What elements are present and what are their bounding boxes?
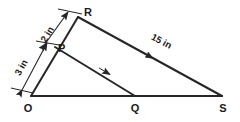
- dimension-extension-lines: [11, 9, 82, 93]
- vertex-label-Q: Q: [131, 102, 140, 114]
- triangle-ORS: [31, 17, 222, 96]
- dimension-label-15in: 15 in: [150, 31, 174, 51]
- segment-PQ: [55, 47, 135, 96]
- vertex-label-P: P: [58, 42, 65, 54]
- geometry-figure: 2 in 3 in 15 in R P O Q S: [0, 0, 240, 122]
- vertex-label-S: S: [219, 102, 226, 114]
- dimension-line-3in: 3 in: [12, 43, 47, 90]
- diagram-canvas: 2 in 3 in 15 in R P O Q S: [0, 0, 240, 122]
- dimension-label-2in: 2 in: [38, 24, 56, 44]
- segment-PQ-direction-arrow: [99, 68, 110, 75]
- vertex-label-O: O: [24, 102, 33, 114]
- segment-RS-direction-arrow: [142, 52, 153, 58]
- dimension-line-2in: 2 in: [38, 12, 68, 44]
- dimension-label-3in: 3 in: [12, 57, 30, 77]
- vertex-label-R: R: [84, 6, 92, 18]
